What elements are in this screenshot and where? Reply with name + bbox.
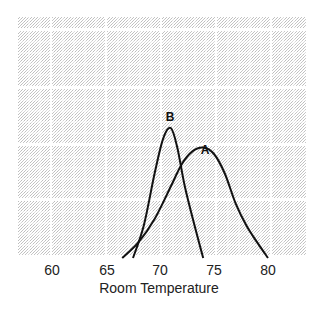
curve-label-b: B <box>166 110 175 124</box>
x-tick-80: 80 <box>260 262 276 278</box>
grid-background <box>18 17 306 255</box>
curve-label-a: A <box>201 143 210 157</box>
x-tick-70: 70 <box>152 262 168 278</box>
x-tick-65: 65 <box>99 262 115 278</box>
x-tick-75: 75 <box>206 262 222 278</box>
x-tick-60: 60 <box>44 262 60 278</box>
x-axis-label: Room Temperature <box>99 280 219 296</box>
